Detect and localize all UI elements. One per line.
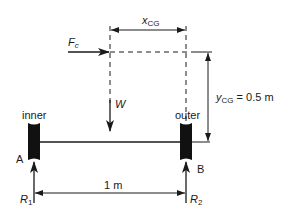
ycg-label: yCG = 0.5 m [215, 91, 274, 105]
inner-support: inner A [16, 109, 47, 165]
fc-label: Fc [68, 36, 79, 50]
r1-label: R1 [20, 193, 33, 207]
weight-label: W [115, 98, 127, 110]
reaction-r1: R1 [20, 162, 34, 207]
span-label: 1 m [104, 179, 122, 191]
r2-label: R2 [190, 193, 203, 207]
free-body-diagram: xCG yCG = 0.5 m Fc W inner A outer B [0, 0, 283, 223]
fc-force: Fc [68, 36, 109, 52]
weight-force: W [110, 98, 127, 131]
outer-label: outer [175, 109, 200, 121]
point-b-label: B [197, 163, 204, 175]
xcg-label: xCG [141, 14, 160, 28]
inner-label: inner [22, 109, 47, 121]
outer-wheel-block [180, 123, 192, 160]
span-dimension: 1 m [35, 179, 185, 193]
ycg-dimension: yCG = 0.5 m [196, 52, 274, 141]
inner-wheel-block [28, 123, 40, 160]
xcg-dimension: xCG [111, 14, 185, 30]
point-a-label: A [16, 153, 24, 165]
